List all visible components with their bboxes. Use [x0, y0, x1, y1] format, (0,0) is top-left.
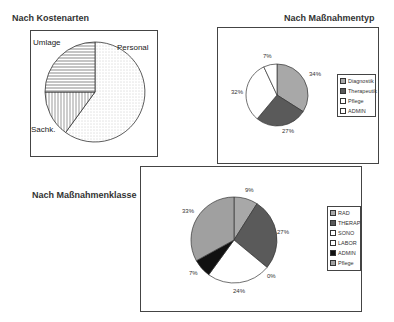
pct-labor: 24%: [233, 288, 245, 294]
swatch-therap: [330, 220, 336, 226]
swatch-sono: [330, 230, 336, 236]
pct-therap: 27%: [277, 229, 289, 235]
legend-item: RAD: [330, 208, 358, 218]
pct-admin: 7%: [189, 270, 198, 276]
legend-item: THERAP: [330, 218, 358, 228]
legend-item: Pflege: [330, 258, 358, 268]
legend-item: LABOR: [330, 238, 358, 248]
swatch-labor: [330, 240, 336, 246]
pct-sono: 0%: [267, 273, 276, 279]
pct-rad: 9%: [245, 187, 254, 193]
legend-item: ADMIN: [330, 248, 358, 258]
swatch-admin: [330, 250, 336, 256]
pct-pflege: 33%: [182, 208, 194, 214]
legend-item: SONO: [330, 228, 358, 238]
swatch-rad: [330, 210, 336, 216]
swatch-pflege: [330, 260, 336, 266]
legend-klasse: RAD THERAP SONO LABOR ADMIN Pflege: [327, 206, 361, 271]
